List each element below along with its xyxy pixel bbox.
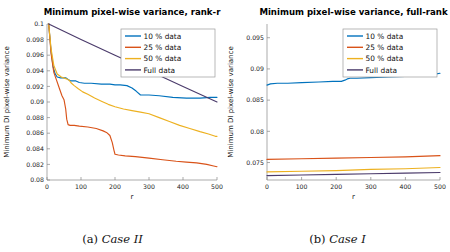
svg-text:25 % data: 25 % data xyxy=(144,43,182,52)
chart-svg-left: Minimum pixel-wise variance, rank-r0.080… xyxy=(0,0,225,218)
svg-text:50 % data: 50 % data xyxy=(144,54,182,63)
svg-text:50 % data: 50 % data xyxy=(366,54,404,63)
svg-text:0.094: 0.094 xyxy=(26,67,44,74)
svg-text:Minimum DI pixel-wise variance: Minimum DI pixel-wise variance xyxy=(227,46,235,157)
svg-text:25 % data: 25 % data xyxy=(366,43,404,52)
svg-text:Minimum pixel-wise variance, r: Minimum pixel-wise variance, rank-r xyxy=(44,7,222,17)
svg-text:r: r xyxy=(131,193,134,201)
caption-right: (b) Case I xyxy=(225,232,450,246)
svg-text:0.09: 0.09 xyxy=(250,65,264,72)
svg-text:0: 0 xyxy=(45,183,49,190)
caption-right-case: Case I xyxy=(329,232,366,246)
svg-text:Minimum DI pixel-wise variance: Minimum DI pixel-wise variance xyxy=(3,46,11,157)
svg-text:300: 300 xyxy=(365,183,377,190)
svg-text:Full data: Full data xyxy=(366,66,398,75)
caption-left-label: (a) xyxy=(82,232,98,246)
svg-text:400: 400 xyxy=(177,183,189,190)
svg-text:0.082: 0.082 xyxy=(26,161,44,168)
svg-text:100: 100 xyxy=(75,183,87,190)
svg-text:200: 200 xyxy=(330,183,342,190)
svg-text:10 % data: 10 % data xyxy=(366,32,404,41)
svg-text:400: 400 xyxy=(399,183,411,190)
svg-text:500: 500 xyxy=(434,183,446,190)
svg-text:0.095: 0.095 xyxy=(246,34,264,41)
svg-text:0.08: 0.08 xyxy=(250,128,264,135)
svg-text:0: 0 xyxy=(265,183,269,190)
chart-svg-right: Minimum pixel-wise variance, full-rank0.… xyxy=(225,0,450,218)
svg-text:Minimum pixel-wise variance, f: Minimum pixel-wise variance, full-rank xyxy=(259,7,448,17)
svg-text:0.086: 0.086 xyxy=(26,129,44,136)
svg-text:0.085: 0.085 xyxy=(246,96,264,103)
svg-text:200: 200 xyxy=(109,183,121,190)
figure-two-panel: Minimum pixel-wise variance, rank-r0.080… xyxy=(0,0,450,252)
svg-text:Full data: Full data xyxy=(144,66,176,75)
svg-text:0.1: 0.1 xyxy=(34,20,44,27)
caption-right-label: (b) xyxy=(309,232,325,246)
caption-left: (a) Case II xyxy=(0,232,225,246)
svg-text:0.098: 0.098 xyxy=(26,36,44,43)
svg-text:0.096: 0.096 xyxy=(26,51,44,58)
svg-text:500: 500 xyxy=(211,183,223,190)
svg-text:0.088: 0.088 xyxy=(26,114,44,121)
svg-text:0.08: 0.08 xyxy=(30,176,44,183)
svg-text:100: 100 xyxy=(296,183,308,190)
svg-text:r: r xyxy=(352,193,355,201)
svg-text:300: 300 xyxy=(143,183,155,190)
svg-text:0.09: 0.09 xyxy=(30,98,44,105)
svg-text:0.084: 0.084 xyxy=(26,145,44,152)
svg-text:0.092: 0.092 xyxy=(26,83,44,90)
chart-full-rank: Minimum pixel-wise variance, full-rank0.… xyxy=(225,0,450,218)
svg-text:0.075: 0.075 xyxy=(246,159,264,166)
panel-left: Minimum pixel-wise variance, rank-r0.080… xyxy=(0,0,225,252)
caption-left-case: Case II xyxy=(102,232,143,246)
chart-rank-r: Minimum pixel-wise variance, rank-r0.080… xyxy=(0,0,225,218)
svg-text:10 % data: 10 % data xyxy=(144,32,182,41)
panel-right: Minimum pixel-wise variance, full-rank0.… xyxy=(225,0,450,252)
